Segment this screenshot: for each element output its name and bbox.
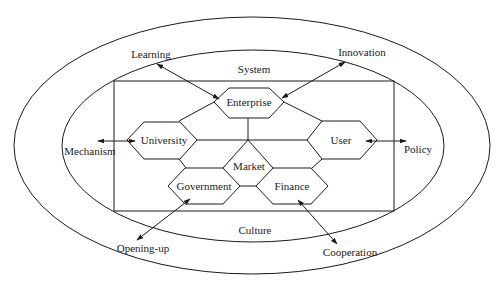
arrow-opening-up-government [137,199,190,240]
node-user: User [307,121,377,159]
node-government-label: Government [177,180,232,192]
arrow-innovation-enterprise [282,62,345,98]
label-culture: Culture [239,224,272,236]
node-university: University [127,122,197,159]
node-user-label: User [331,134,352,146]
label-policy: Policy [404,143,433,155]
node-finance-label: Finance [275,180,310,192]
arrow-cooperation-finance [298,200,337,244]
node-enterprise-label: Enterprise [226,96,271,108]
node-market-label: Market [233,160,265,172]
label-cooperation: Cooperation [323,246,378,258]
label-opening-up: Opening-up [117,242,170,254]
node-enterprise: Enterprise [214,88,284,118]
node-market: Market [233,160,265,172]
node-government: Government [168,168,240,204]
label-innovation: Innovation [338,46,386,58]
label-system: System [238,63,271,75]
label-learning: Learning [131,48,171,60]
innovation-ecosystem-diagram: Enterprise University User Government Fi… [0,0,504,288]
label-mechanism: Mechanism [64,145,116,157]
node-university-label: University [141,134,188,146]
node-finance: Finance [256,168,328,204]
